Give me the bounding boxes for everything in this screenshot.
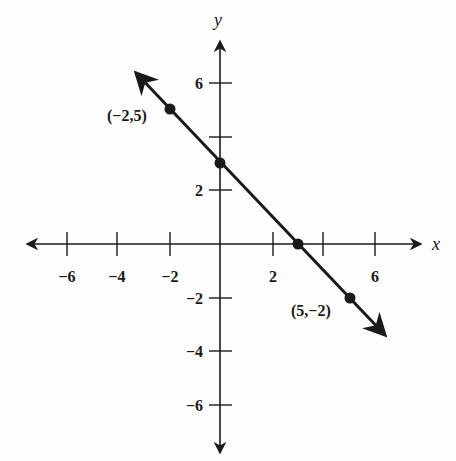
point-label: (−2,5) [107,107,147,125]
x-tick-label: −4 [108,268,125,285]
point-label: (5,−2) [291,302,331,320]
y-tick-label: 2 [195,182,203,199]
y-tick-label: −6 [186,397,203,414]
point-5-neg2 [345,293,356,304]
coordinate-plane-figure: −6 −4 −2 2 6 6 2 −2 −4 −6 x y (−2,5) (5,… [0,0,456,461]
point-0-3 [215,158,226,169]
point-3-0 [293,239,304,250]
y-tick-label: 6 [195,75,203,92]
x-tick-label: 6 [371,268,379,285]
x-tick-label: 2 [269,268,277,285]
x-axis-label: x [431,234,440,254]
y-axis-label: y [212,10,222,30]
y-tick-label: −4 [186,343,203,360]
chart-svg: −6 −4 −2 2 6 6 2 −2 −4 −6 x y (−2,5) (5,… [0,0,456,461]
y-tick-label: −2 [186,290,203,307]
x-tick-label: −6 [58,268,75,285]
point-neg2-5 [165,104,176,115]
x-tick-label: −2 [161,268,178,285]
